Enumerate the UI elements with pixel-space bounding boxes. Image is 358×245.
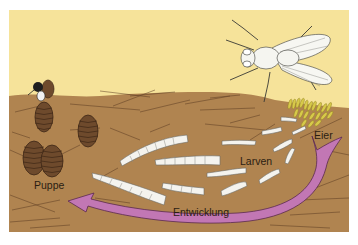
pupa-label: Puppe — [34, 180, 64, 191]
pupa — [78, 115, 98, 147]
pupa — [41, 145, 63, 177]
fly-thorax — [252, 47, 280, 69]
larvae-label: Larven — [240, 156, 272, 167]
fly-abdomen — [277, 50, 299, 66]
pupa — [35, 102, 53, 132]
larva — [222, 140, 256, 145]
development-label: Entwicklung — [173, 207, 229, 218]
eggs-label: Eier — [314, 130, 333, 141]
